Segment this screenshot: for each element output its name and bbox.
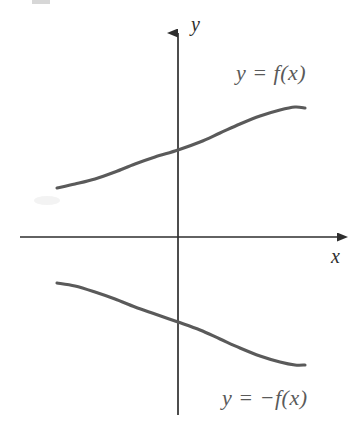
- graph-figure: y x y = f(x) y = −f(x): [0, 0, 357, 426]
- curve-label-upper: y = f(x): [236, 62, 306, 84]
- curve-upper-f-of-x: [57, 107, 305, 188]
- y-axis-label: y: [191, 14, 200, 34]
- curve-label-lower: y = −f(x): [222, 387, 308, 409]
- x-axis-label: x: [331, 246, 340, 266]
- curve-lower-negative-f-of-x: [57, 283, 305, 365]
